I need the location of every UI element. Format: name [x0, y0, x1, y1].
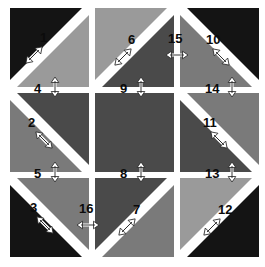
arrow-label-15: 15 — [168, 32, 182, 45]
arrow-label-13: 13 — [205, 167, 219, 180]
arrow-label-5: 5 — [34, 167, 41, 180]
arrow-16-horizontal-icon — [76, 217, 100, 233]
arrow-14-vertical-icon — [224, 76, 240, 98]
arrow-11-diagonal-icon — [206, 127, 232, 153]
arrow-2-diagonal-icon — [31, 127, 57, 153]
arrow-label-8: 8 — [120, 167, 127, 180]
arrow-12-diagonal-icon — [199, 214, 225, 240]
arrow-13-vertical-icon — [224, 161, 240, 183]
arrow-label-14: 14 — [205, 82, 219, 95]
arrow-9-vertical-icon — [133, 76, 149, 98]
arrow-label-4: 4 — [34, 82, 41, 95]
arrow-5-vertical-icon — [47, 161, 63, 183]
arrow-7-diagonal-icon — [114, 214, 140, 240]
arrow-15-horizontal-icon — [165, 47, 189, 63]
arrow-6-diagonal-icon — [110, 44, 136, 70]
arrow-label-16: 16 — [79, 202, 93, 215]
arrow-8-vertical-icon — [133, 161, 149, 183]
arrow-3-diagonal-icon — [32, 212, 58, 238]
arrow-label-9: 9 — [120, 82, 127, 95]
arrow-10-diagonal-icon — [208, 44, 234, 70]
figure-canvas: 1 2 3 — [0, 0, 265, 267]
arrow-1-diagonal-icon — [21, 42, 47, 68]
arrow-4-vertical-icon — [47, 76, 63, 98]
